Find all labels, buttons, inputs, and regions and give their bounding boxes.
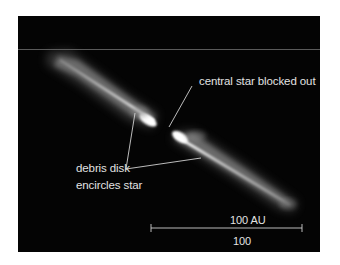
scale-bar [151, 224, 302, 232]
label-central-star: central star blocked out [199, 75, 316, 88]
label-debris-disk-line2: encircles star [76, 179, 142, 192]
scale-bar-label-top: 100 AU [230, 214, 265, 227]
scale-bar-label-bottom: 100 [233, 235, 251, 248]
label-debris-disk-line1: debris disk [76, 162, 130, 175]
annotation-leader-lines [126, 86, 201, 169]
astronomical-image-frame: central star blocked out debris disk enc… [18, 16, 320, 252]
leader-line-debris-left [126, 113, 135, 169]
leader-line-debris-right [126, 158, 201, 169]
debris-disk-image [18, 16, 320, 252]
leader-line-central-star [169, 86, 192, 127]
disk-lobe-upper-left [46, 50, 159, 129]
disk-lobe-lower-right [170, 128, 298, 212]
